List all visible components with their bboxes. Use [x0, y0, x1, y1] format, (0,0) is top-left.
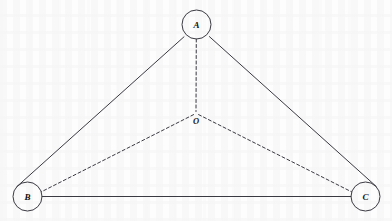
edge-a-b	[17, 37, 184, 187]
node-c: C	[351, 182, 380, 211]
node-b-label: B	[23, 192, 30, 202]
edge-o-c	[199, 115, 352, 192]
node-a-label: A	[192, 20, 199, 30]
node-c-label: C	[362, 192, 369, 202]
node-b: B	[13, 182, 42, 211]
interior-point-o: O	[193, 116, 199, 126]
triangle-diagram: A B C O	[0, 0, 392, 221]
edge-o-b	[41, 115, 193, 192]
point-o-label: O	[193, 116, 199, 126]
node-a: A	[182, 10, 211, 39]
edge-a-c	[209, 37, 376, 187]
figure-canvas: A B C O	[0, 0, 392, 221]
